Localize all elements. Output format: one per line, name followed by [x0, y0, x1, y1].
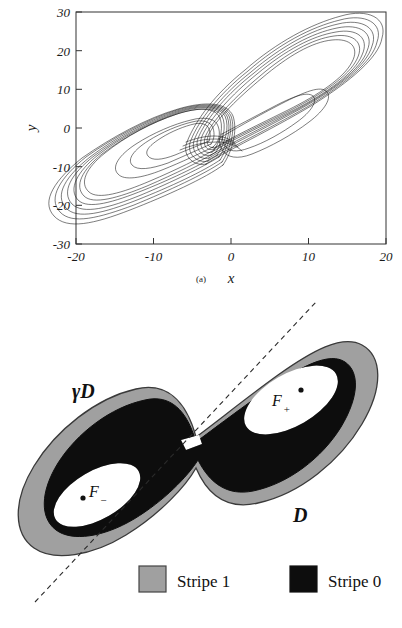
x-axis-ticks: [76, 238, 386, 244]
stripe-diagram-svg: γD D F + F − Stripe 1 Stripe 0: [0, 290, 402, 628]
y-tick-label: 0: [64, 121, 71, 136]
y-tick-label: 30: [56, 5, 71, 20]
y-tick-label: 10: [57, 82, 71, 97]
x-axis-tick-labels: -20 -10 0 10 20: [67, 249, 393, 264]
figure-container: 30 20 10 0 -10 -20 -30 -20 -10 0 10: [0, 0, 402, 628]
legend-label-stripe-1: Stripe 1: [177, 572, 230, 591]
legend: Stripe 1 Stripe 0: [139, 566, 381, 592]
label-f-minus-letter: F: [88, 483, 99, 500]
legend-label-stripe-0: Stripe 0: [328, 572, 381, 591]
panel-b-stripe-diagram: γD D F + F − Stripe 1 Stripe 0 (b): [0, 290, 402, 628]
panel-a-caption: (a): [0, 274, 402, 284]
label-f-minus-subscript: −: [100, 494, 107, 506]
y-tick-label: 20: [57, 44, 71, 59]
attractor-svg: 30 20 10 0 -10 -20 -30 -20 -10 0 10: [0, 0, 402, 296]
x-tick-label: -10: [145, 249, 163, 264]
label-d: D: [292, 504, 307, 526]
x-tick-label: 0: [228, 249, 235, 264]
stripe-0-swatch: [290, 566, 317, 592]
y-axis-tick-labels: 30 20 10 0 -10 -20 -30: [53, 5, 71, 252]
fixed-point-dot-plus: [298, 387, 303, 392]
attractor-trajectory: [49, 13, 383, 224]
stripe-1-swatch: [139, 566, 166, 592]
y-axis-label: y: [23, 124, 39, 133]
label-f-plus-letter: F: [271, 392, 282, 409]
y-axis-ticks: [76, 12, 82, 244]
label-gamma-d: γD: [72, 380, 95, 403]
y-tick-label: -10: [53, 160, 71, 175]
x-tick-label: -20: [67, 249, 85, 264]
x-tick-label: 10: [302, 249, 316, 264]
label-f-plus-subscript: +: [283, 403, 290, 415]
fixed-point-dot-minus: [80, 495, 85, 500]
panel-a-attractor-plot: 30 20 10 0 -10 -20 -30 -20 -10 0 10: [0, 0, 402, 296]
x-tick-label: 20: [380, 249, 394, 264]
